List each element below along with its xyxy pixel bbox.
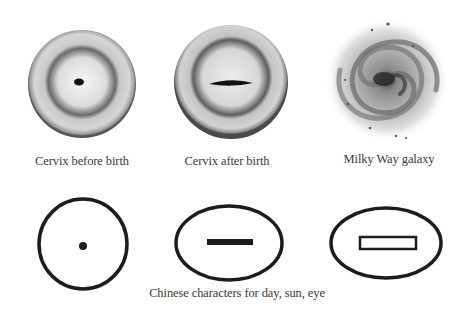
os-dot-icon xyxy=(74,79,84,86)
caption-chinese-characters: Chinese characters for day, sun, eye xyxy=(149,286,325,301)
caption-cervix-before: Cervix before birth xyxy=(35,154,129,169)
cervix-before-illustration xyxy=(28,30,136,138)
sun-character-symbol xyxy=(176,206,282,280)
eye-character-symbol xyxy=(331,208,441,278)
caption-cervix-after: Cervix after birth xyxy=(185,154,270,169)
day-character-symbol xyxy=(39,199,127,289)
milky-way-illustration xyxy=(325,18,449,142)
cervix-after-illustration xyxy=(174,25,288,139)
caption-milky-way: Milky Way galaxy xyxy=(344,152,435,167)
